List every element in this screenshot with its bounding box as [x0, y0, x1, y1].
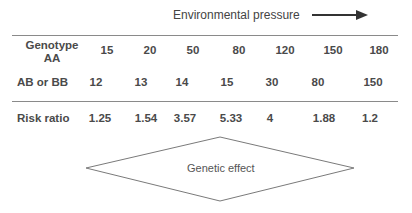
cell: 80 [233, 44, 246, 56]
middle-divider [12, 101, 398, 102]
cell: 150 [363, 76, 382, 88]
cell: 1.88 [313, 112, 335, 124]
cell: 1.25 [89, 112, 111, 124]
cell: 80 [312, 76, 325, 88]
cell: 1.54 [135, 112, 157, 124]
cell: 3.57 [174, 112, 196, 124]
genetic-effect-label: Genetic effect [187, 162, 255, 174]
cell: 4 [267, 112, 273, 124]
cell: 30 [266, 76, 279, 88]
right-arrow-icon [312, 10, 368, 20]
cell: 1.2 [362, 112, 378, 124]
cell: 15 [221, 76, 234, 88]
top-divider [12, 35, 398, 36]
cell: 5.33 [220, 112, 242, 124]
cell: 50 [187, 44, 200, 56]
cell: 150 [323, 44, 342, 56]
cell: 20 [144, 44, 157, 56]
cell: 15 [101, 44, 114, 56]
cell: 180 [369, 44, 388, 56]
cell: 12 [90, 76, 103, 88]
cell: 14 [176, 76, 189, 88]
row-label-genotype-aa: Genotype AA [22, 39, 82, 65]
row-label-ab-or-bb: AB or BB [17, 76, 68, 88]
cell: 120 [275, 44, 294, 56]
row-label-risk-ratio: Risk ratio [17, 112, 69, 124]
cell: 13 [135, 76, 148, 88]
diagram-graphics [0, 0, 412, 213]
